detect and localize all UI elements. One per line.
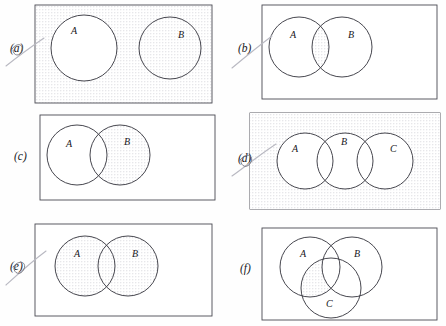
panel-b-label-a: A [289,29,297,40]
panel-d-label-c: C [390,143,397,154]
panel-b-label-b: B [348,29,354,40]
panel-d-label-a: A [291,143,299,154]
panel-f: A B C (f) [240,228,437,320]
panel-f-label-a: A [299,248,307,259]
panel-f-frame [262,228,437,320]
panel-c-caption: (c) [14,150,27,163]
panel-d: A B C (d) [232,113,440,209]
panel-f-label-b: B [354,248,360,259]
panel-b: A B (b) [232,5,437,99]
venn-figure-canvas: A B (a) A B (b) [0,0,446,326]
panel-d-label-b: B [341,136,347,147]
venn-figure: A B (a) A B (b) [0,0,446,326]
panel-c: A B (c) [14,115,215,200]
panel-f-label-c: C [326,298,333,309]
panel-f-caption: (f) [240,262,251,275]
panel-c-label-a: A [65,138,73,149]
panel-a-label-b: B [178,29,184,40]
panel-e: A B (e) [6,224,212,316]
panel-c-label-b: B [124,136,130,147]
panel-e-label-b: B [132,248,138,259]
panel-a: A B (a) [6,5,212,103]
panel-e-label-a: A [73,248,81,259]
panel-d-shaded-complement [250,113,440,209]
panel-a-label-a: A [70,25,78,36]
